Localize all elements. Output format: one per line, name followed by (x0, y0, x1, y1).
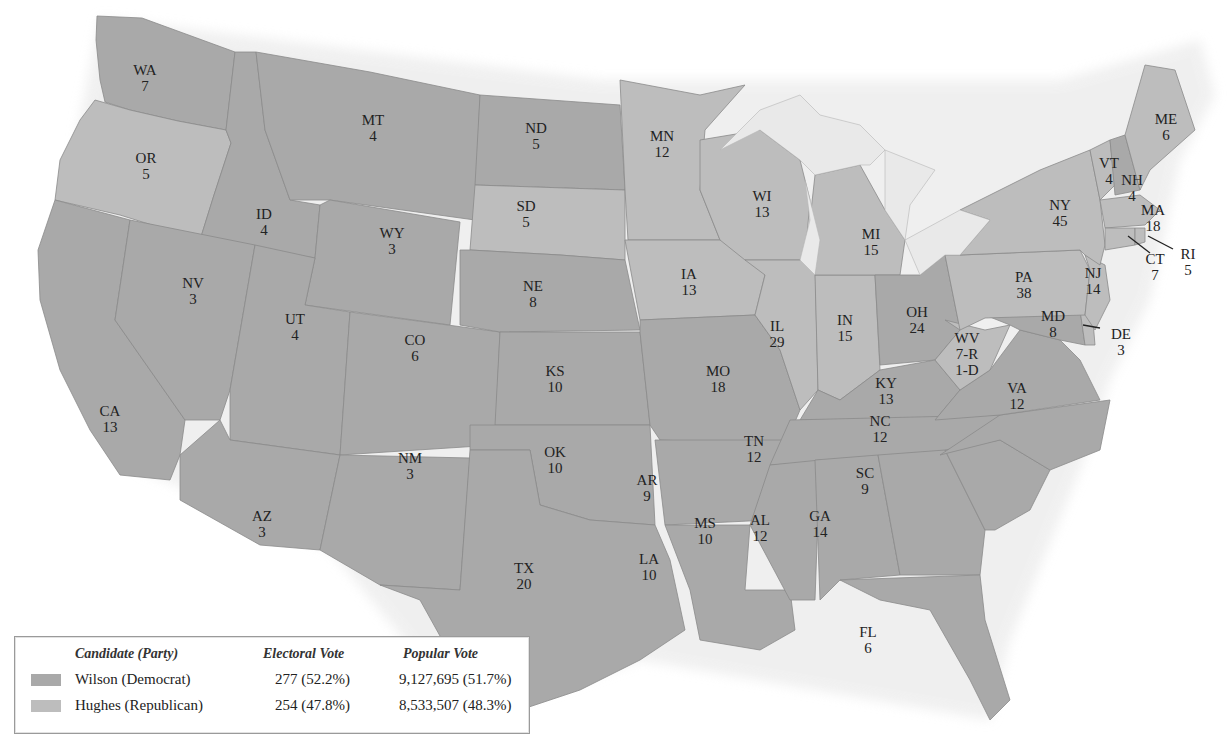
label-TX: TX20 (514, 560, 534, 592)
label-ID: ID4 (256, 206, 272, 238)
label-NM: NM3 (398, 450, 422, 482)
label-MN: MN12 (650, 128, 674, 160)
label-MD: MD8 (1041, 308, 1065, 340)
label-MA: MA18 (1141, 202, 1165, 234)
label-SD: SD5 (516, 198, 535, 230)
label-ME: ME6 (1155, 111, 1178, 143)
label-VA: VA12 (1007, 380, 1027, 412)
candidate-name: Hughes (Republican) (75, 697, 203, 714)
label-IL: IL29 (770, 318, 785, 350)
label-DE: DE3 (1111, 326, 1131, 358)
label-OK: OK10 (544, 444, 566, 476)
label-MO: MO18 (706, 363, 730, 395)
label-WV: WV7-R1-D (955, 330, 980, 378)
electoral-vote: 277 (52.2%) (275, 671, 350, 688)
state-KS (495, 332, 650, 425)
state-ND (475, 95, 625, 190)
label-AL: AL12 (750, 512, 770, 544)
label-MI: MI15 (862, 226, 880, 258)
label-VT: VT4 (1099, 155, 1119, 187)
label-AZ: AZ3 (252, 508, 272, 540)
popular-vote: 9,127,695 (51.7%) (399, 671, 512, 688)
label-CO: CO6 (405, 332, 426, 364)
label-SC: SC9 (856, 465, 874, 497)
label-NE: NE8 (523, 278, 543, 310)
label-AR: AR9 (637, 472, 658, 504)
legend-row-hughes: Hughes (Republican) 254 (47.8%) 8,533,50… (15, 696, 529, 718)
label-GA: GA14 (809, 508, 831, 540)
label-MT: MT4 (362, 112, 385, 144)
electoral-vote: 254 (47.8%) (275, 697, 350, 714)
legend-box: Candidate (Party) Electoral Vote Popular… (14, 636, 530, 734)
label-RI: RI5 (1181, 246, 1196, 278)
label-UT: UT4 (285, 311, 305, 343)
hughes-color-swatch (31, 700, 61, 712)
label-NV: NV3 (182, 275, 204, 307)
label-FL: FL6 (859, 624, 877, 656)
label-MS: MS10 (694, 515, 716, 547)
legend-header-popular: Popular Vote (403, 646, 478, 662)
candidate-name: Wilson (Democrat) (75, 671, 191, 688)
label-NH: NH4 (1121, 172, 1143, 204)
label-KY: KY13 (875, 375, 897, 407)
state-WY (305, 200, 460, 325)
wilson-color-swatch (31, 674, 61, 686)
state-SD (470, 185, 625, 260)
label-PA: PA38 (1015, 269, 1033, 301)
label-IA: IA13 (681, 266, 697, 298)
label-WA: WA7 (133, 62, 156, 94)
label-KS: KS10 (545, 363, 564, 395)
state-NM (320, 455, 470, 590)
label-CT: CT7 (1145, 251, 1164, 283)
label-NC: NC12 (870, 413, 891, 445)
label-ND: ND5 (525, 120, 547, 152)
label-WI: WI13 (752, 188, 771, 220)
legend-header-electoral: Electoral Vote (263, 646, 344, 662)
legend-row-wilson: Wilson (Democrat) 277 (52.2%) 9,127,695 … (15, 670, 529, 692)
label-OR: OR5 (136, 150, 157, 182)
label-NY: NY45 (1049, 197, 1071, 229)
label-WY: WY3 (380, 225, 405, 257)
label-TN: TN12 (744, 433, 764, 465)
label-OH: OH24 (906, 304, 928, 336)
label-IN: IN15 (837, 312, 853, 344)
us-electoral-map (0, 0, 1231, 740)
label-LA: LA10 (639, 551, 659, 583)
popular-vote: 8,533,507 (48.3%) (399, 697, 512, 714)
label-NJ: NJ14 (1085, 265, 1102, 297)
label-CA: CA13 (100, 403, 121, 435)
legend-header-candidate: Candidate (Party) (75, 646, 178, 662)
state-NE (460, 250, 640, 332)
